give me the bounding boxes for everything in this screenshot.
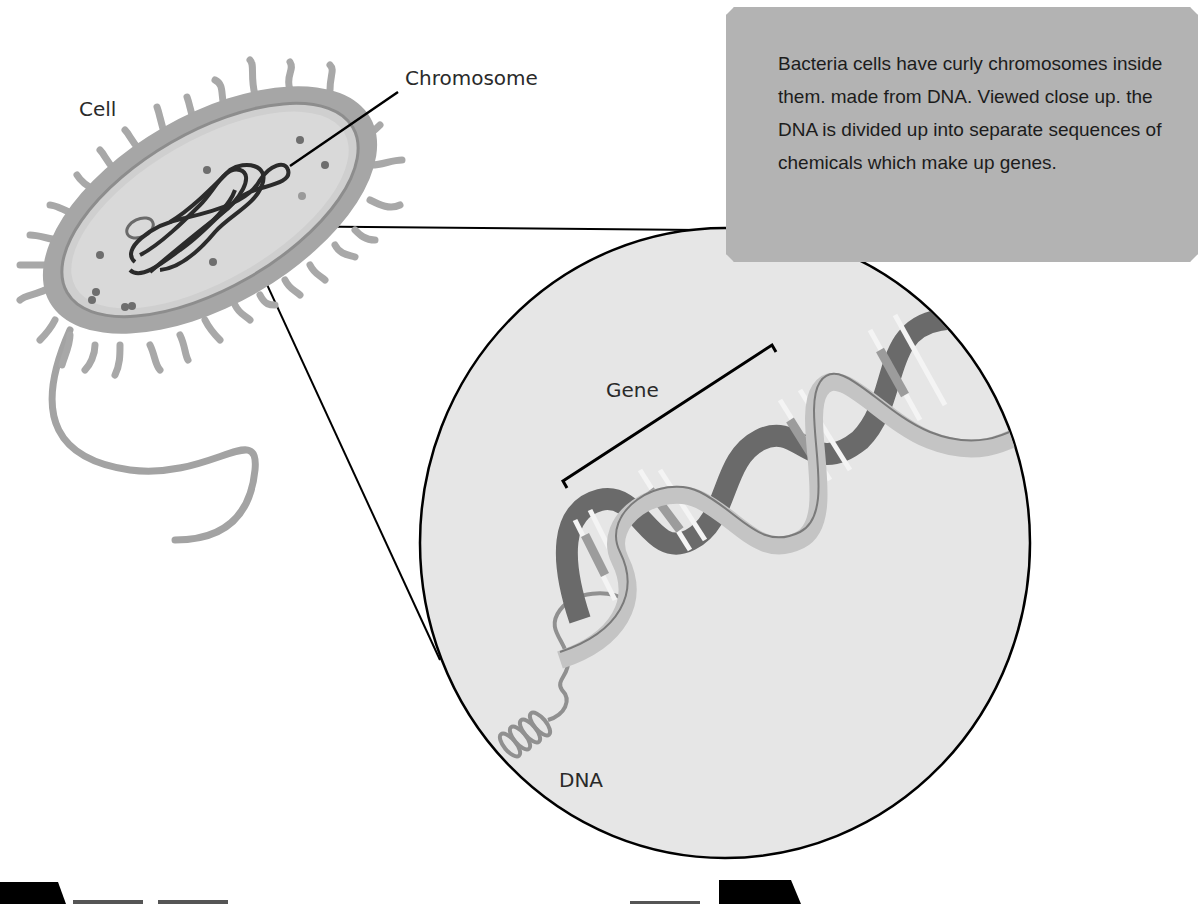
info-box: Bacteria cells have curly chromosomes in… [726,7,1198,262]
cell-label: Cell [79,97,116,121]
gene-label: Gene [606,378,659,402]
page-edge-shapes [0,880,801,904]
dna-label: DNA [559,768,603,792]
bacteria-cell [2,35,417,540]
info-box-text: Bacteria cells have curly chromosomes in… [778,47,1178,179]
diagram-canvas: Cell Chromosome Gene DNA Bacteria cells … [0,0,1201,904]
chromosome-label: Chromosome [405,66,538,90]
